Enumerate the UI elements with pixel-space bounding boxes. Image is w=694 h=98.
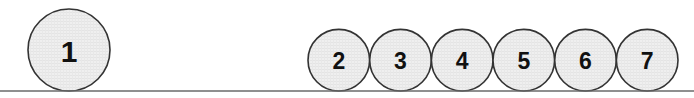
circle-7[interactable]: 7 — [616, 29, 678, 91]
figure-canvas: 1234567 — [0, 0, 694, 98]
circle-label-2: 2 — [332, 48, 345, 74]
figure-svg: 1234567 — [0, 0, 694, 98]
circle-6[interactable]: 6 — [555, 29, 617, 91]
circle-label-7: 7 — [641, 48, 654, 74]
circle-label-1: 1 — [61, 35, 78, 68]
circle-5[interactable]: 5 — [493, 29, 555, 91]
circle-3[interactable]: 3 — [370, 29, 432, 91]
circle-label-3: 3 — [394, 48, 407, 74]
circles-group: 1234567 — [28, 9, 678, 91]
circle-2[interactable]: 2 — [308, 29, 370, 91]
circle-label-4: 4 — [456, 48, 469, 74]
circle-label-6: 6 — [579, 48, 592, 74]
circle-4[interactable]: 4 — [431, 29, 493, 91]
circle-label-5: 5 — [517, 48, 530, 74]
circle-1[interactable]: 1 — [28, 9, 110, 91]
